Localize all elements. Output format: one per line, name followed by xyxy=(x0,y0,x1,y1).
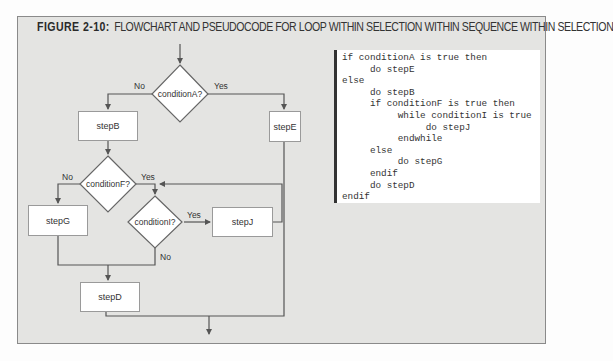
pseudocode-panel: if conditionA is true then do stepE else… xyxy=(334,50,540,203)
pseudocode-line: do stepG xyxy=(342,156,540,168)
decision-conditionA: conditionA? xyxy=(158,89,202,99)
process-stepB: stepB xyxy=(78,111,138,141)
edge-label-f-no: No xyxy=(62,172,73,182)
edge-label-i-yes: Yes xyxy=(187,210,201,220)
pseudocode-line: if conditionA is true then xyxy=(342,52,540,64)
pseudocode-line: if conditionF is true then xyxy=(342,98,540,110)
pseudocode-line: do stepJ xyxy=(342,122,540,134)
edge-label-f-yes: Yes xyxy=(141,172,155,182)
pseudocode-line: do stepE xyxy=(342,64,540,76)
decision-conditionI: conditionI? xyxy=(134,217,175,227)
pseudocode-line: endwhile xyxy=(342,133,540,145)
pseudocode-line: do stepB xyxy=(342,87,540,99)
pseudocode-line: endif xyxy=(342,191,540,203)
process-stepD: stepD xyxy=(80,282,140,312)
edge-label-a-no: No xyxy=(134,81,145,91)
edge-label-a-yes: Yes xyxy=(214,81,228,91)
pseudocode-line: endif xyxy=(342,168,540,180)
pseudocode-line: else xyxy=(342,75,540,87)
process-stepE: stepE xyxy=(269,111,301,142)
process-stepG: stepG xyxy=(28,205,88,236)
pseudocode-line: while conditionI is true xyxy=(342,110,540,122)
pseudocode-line: do stepD xyxy=(342,180,540,192)
pseudocode-line: else xyxy=(342,145,540,157)
decision-conditionF: conditionF? xyxy=(86,179,130,189)
edge-label-i-no: No xyxy=(160,252,171,262)
process-stepJ: stepJ xyxy=(212,207,273,237)
